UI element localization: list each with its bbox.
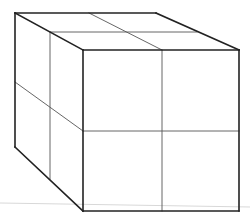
cube-diagram-canvas: [0, 0, 250, 221]
cube-diagram: [0, 0, 250, 221]
background: [0, 0, 250, 221]
